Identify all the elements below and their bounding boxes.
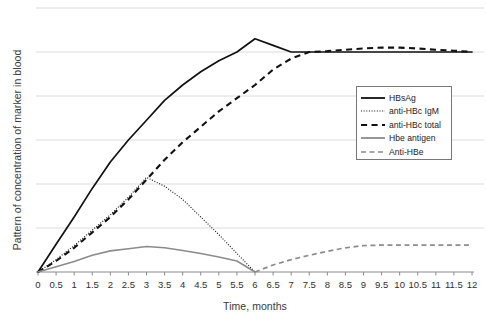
plot-area (0, 0, 487, 322)
x-axis-tick-labels: 00.511.522.533.544.555.566.577.588.599.5… (0, 278, 487, 292)
legend-swatch-solid-black-icon (360, 92, 386, 104)
x-axis-title: Time, months (38, 300, 472, 312)
legend-item-hbsag: HBsAg (360, 91, 451, 105)
legend: HBsAg anti-HBc IgM anti-HBc total Hbe an… (356, 86, 452, 160)
legend-label: Anti-HBe (386, 147, 424, 157)
legend-item-hbe-antigen: Hbe antigen (360, 132, 451, 146)
legend-swatch-dashed-gray-icon (360, 146, 386, 158)
legend-item-anti-hbc-igm: anti-HBc IgM (360, 105, 451, 119)
legend-swatch-solid-gray-icon (360, 132, 386, 144)
legend-label: Hbe antigen (386, 133, 436, 143)
chart-figure: Pattern of concentration of marker in bl… (0, 0, 487, 322)
legend-label: anti-HBc total (386, 120, 441, 130)
legend-label: anti-HBc IgM (386, 106, 439, 116)
legend-swatch-dotted-black-icon (360, 105, 386, 117)
y-axis-title: Pattern of concentration of marker in bl… (10, 5, 24, 295)
legend-swatch-dashed-black-icon (360, 119, 386, 131)
legend-label: HBsAg (386, 93, 416, 103)
legend-item-anti-hbe: Anti-HBe (360, 145, 451, 159)
x-axis-tick-label: 12 (460, 278, 484, 292)
series-line (255, 245, 472, 272)
legend-item-anti-hbc-total: anti-HBc total (360, 118, 451, 132)
series-line (38, 246, 255, 272)
